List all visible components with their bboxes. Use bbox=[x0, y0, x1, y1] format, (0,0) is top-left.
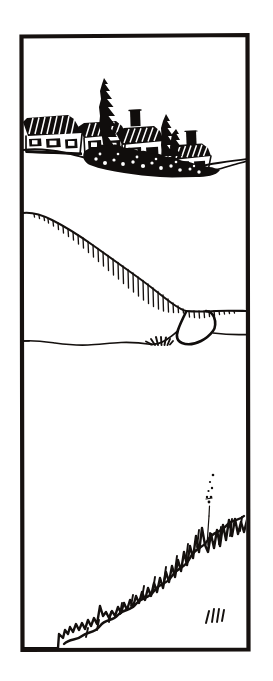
landscape-ink-drawing: Coastal village above a sloping hillside bbox=[0, 0, 273, 681]
slope-shelf bbox=[186, 311, 247, 312]
artwork-canvas: Coastal village above a sloping hillside bbox=[0, 0, 273, 681]
